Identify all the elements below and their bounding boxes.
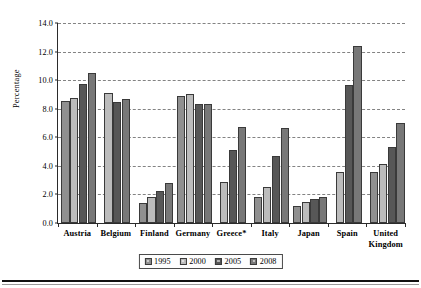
- bars-layer: [58, 23, 405, 223]
- legend-swatch-icon: [250, 258, 257, 265]
- x-axis-label-line: United: [373, 229, 398, 238]
- y-tick-label: 6.0: [42, 133, 53, 142]
- x-tick-mark: [289, 223, 290, 227]
- x-axis-label: UnitedKingdom: [369, 229, 403, 250]
- x-axis-label-line: Greece*: [217, 229, 247, 238]
- x-axis-label-line: Finland: [140, 229, 169, 238]
- legend-swatch-icon: [180, 258, 187, 265]
- y-tick-label: 2.0: [42, 190, 53, 199]
- legend-label: 2005: [225, 257, 242, 266]
- y-tick-label: 14.0: [38, 19, 53, 28]
- x-axis-label-line: Austria: [63, 229, 91, 238]
- legend-label: 1995: [154, 257, 171, 266]
- legend-item[interactable]: 2000: [180, 257, 206, 266]
- chart-figure: Percentage 0.02.04.06.08.010.012.014.0 A…: [0, 0, 421, 288]
- chart-legend: 1995200020052008: [138, 254, 282, 269]
- x-tick-mark: [212, 223, 213, 227]
- legend-swatch-icon: [144, 258, 151, 265]
- x-axis-label: Belgium: [101, 229, 131, 240]
- x-axis-label-line: Spain: [337, 229, 358, 238]
- x-axis-label: Greece*: [217, 229, 247, 240]
- x-tick-mark: [97, 223, 98, 227]
- x-tick-mark: [251, 223, 252, 227]
- x-axis-label-line: Kingdom: [369, 240, 403, 251]
- x-axis-label-line: Japan: [297, 229, 319, 238]
- bottom-divider-rule: [2, 280, 419, 282]
- x-axis-label: Austria: [63, 229, 91, 240]
- y-axis-title: Percentage: [12, 69, 21, 108]
- x-tick-mark: [366, 223, 367, 227]
- x-tick-mark: [174, 223, 175, 227]
- bar: [370, 172, 378, 223]
- x-tick-mark: [58, 223, 59, 227]
- y-tick-label: 4.0: [42, 161, 53, 170]
- bar: [396, 123, 404, 223]
- legend-item[interactable]: 2005: [215, 257, 241, 266]
- x-axis-label-line: Germany: [176, 229, 211, 238]
- y-tick-label: 0.0: [42, 219, 53, 228]
- y-tick-label: 10.0: [38, 76, 53, 85]
- x-axis-label: Spain: [337, 229, 358, 240]
- x-tick-mark: [328, 223, 329, 227]
- bottom-divider-rule-secondary: [2, 284, 419, 285]
- x-tick-mark: [135, 223, 136, 227]
- x-axis-label: Finland: [140, 229, 169, 240]
- legend-label: 2000: [189, 257, 206, 266]
- y-tick-label: 8.0: [42, 104, 53, 113]
- x-axis-label-line: Italy: [261, 229, 278, 238]
- x-axis-label: Italy: [261, 229, 278, 240]
- plot-area: 0.02.04.06.08.010.012.014.0 AustriaBelgi…: [57, 23, 405, 224]
- x-axis-label: Germany: [176, 229, 211, 240]
- legend-item[interactable]: 2008: [250, 257, 276, 266]
- x-axis-label: Japan: [297, 229, 319, 240]
- bar: [388, 147, 396, 223]
- legend-swatch-icon: [215, 258, 222, 265]
- x-axis-label-line: Belgium: [101, 229, 131, 238]
- bar: [379, 164, 387, 223]
- legend-item[interactable]: 1995: [144, 257, 170, 266]
- legend-label: 2008: [260, 257, 277, 266]
- x-tick-mark: [405, 223, 406, 227]
- y-tick-label: 12.0: [38, 47, 53, 56]
- bar-group: [58, 23, 405, 223]
